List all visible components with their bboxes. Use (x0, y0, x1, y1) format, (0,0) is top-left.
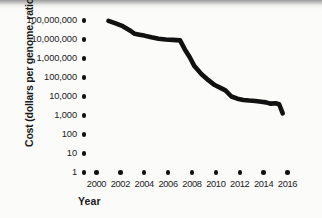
plot-area (0, 0, 322, 218)
series-line-cost-per-genome (108, 21, 282, 113)
chart-figure: Cost (dollars per genome, ratio scale) 1… (0, 0, 322, 218)
